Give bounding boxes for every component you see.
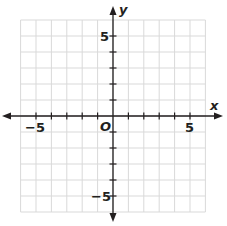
y-axis-up-arrow-icon [110,6,117,15]
x-tick-label-neg5: −5 [25,120,45,135]
y-axis-label: y [119,2,128,17]
origin-label: O [100,119,111,134]
coordinate-plane: y x O −5 5 5 −5 [0,0,227,226]
y-axis-down-arrow-icon [110,213,117,222]
y-tick-label-5: 5 [100,29,109,44]
y-tick-label-neg5: −5 [91,189,111,204]
x-tick-label-5: 5 [185,120,194,135]
x-axis-label: x [209,98,219,113]
x-axis-left-arrow-icon [2,113,11,120]
x-axis-right-arrow-icon [214,113,223,120]
